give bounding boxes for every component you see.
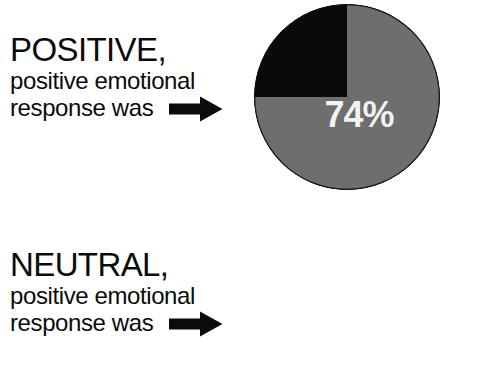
pie-chart-positive — [254, 4, 440, 190]
arrow-right-icon — [169, 96, 223, 122]
subtext-positive-line2-wrap: response was — [10, 94, 255, 121]
arrow-right-icon — [169, 311, 223, 337]
headline-positive: POSITIVE, — [10, 33, 255, 67]
chart-row-positive: POSITIVE, positive emotional response wa… — [0, 0, 487, 196]
caption-neutral: NEUTRAL, positive emotional response was — [10, 248, 255, 336]
subtext-neutral-line2-wrap: response was — [10, 309, 255, 336]
subtext-positive-line1: positive emotional — [10, 67, 255, 94]
infographic-canvas: POSITIVE, positive emotional response wa… — [0, 0, 487, 368]
subtext-neutral-line2: response was — [10, 309, 153, 336]
subtext-neutral-line1: positive emotional — [10, 282, 255, 309]
caption-positive: POSITIVE, positive emotional response wa… — [10, 33, 255, 121]
subtext-positive-line2: response was — [10, 94, 153, 121]
chart-row-neutral: NEUTRAL, positive emotional response was — [0, 196, 487, 368]
headline-neutral: NEUTRAL, — [10, 248, 255, 282]
